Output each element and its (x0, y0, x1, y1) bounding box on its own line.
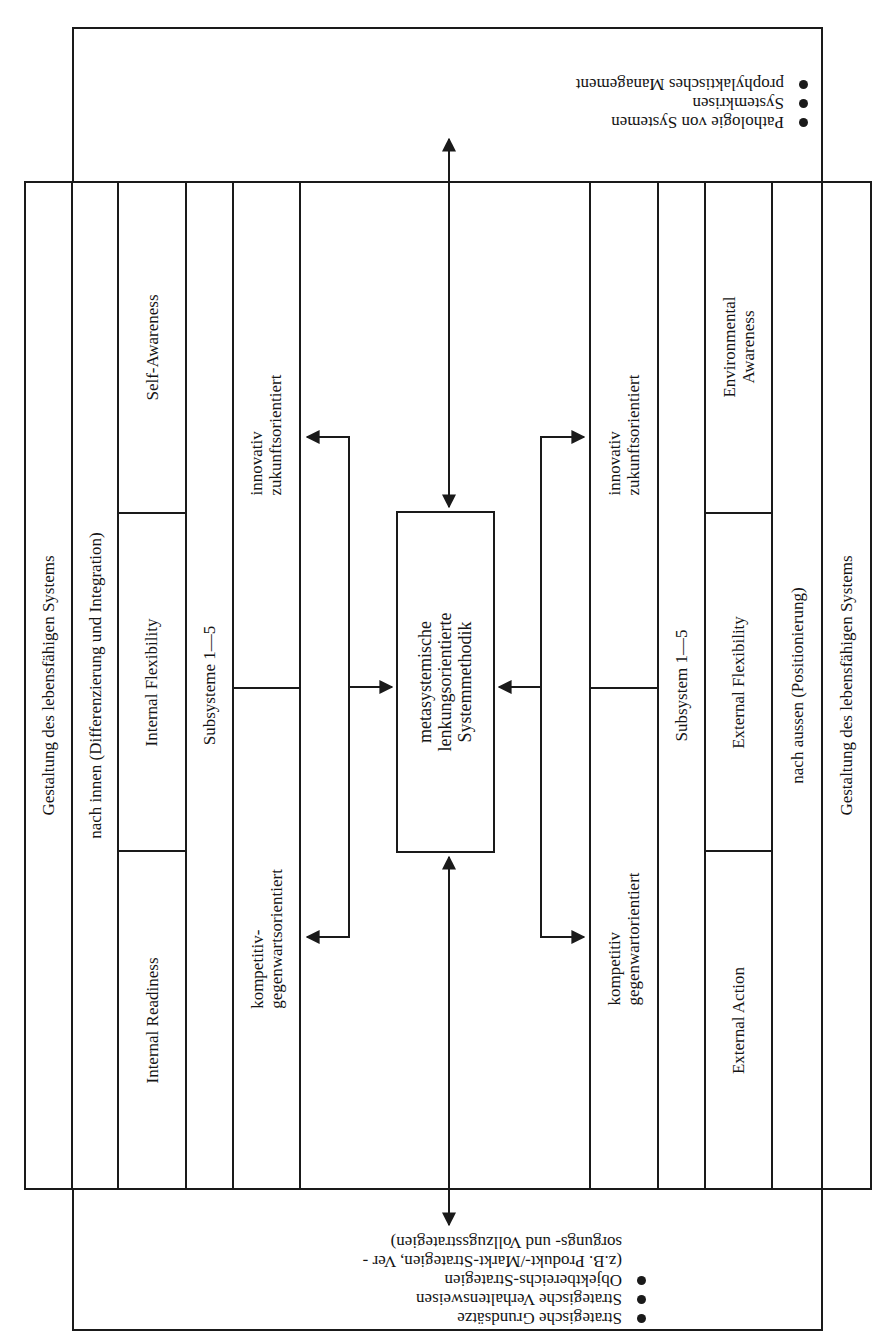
bullet-icon (637, 1295, 646, 1304)
external-flexibility-cell: External Flexibility (705, 513, 772, 851)
left-outer-label: Gestaltung des lebensfähigen Systems (24, 181, 72, 1190)
external-action-cell: External Action (705, 851, 772, 1190)
list-item: prophylaktisches Management (470, 75, 810, 94)
right-competitive-cell: kompetitiv gegenwartorientiert (590, 688, 658, 1190)
list-item: Strategische Grundsätze (308, 1309, 648, 1328)
self-awareness-cell: Self-Awareness (118, 181, 186, 513)
left-innovative-cell: innovativ zukunftsorientiert (233, 181, 300, 688)
list-item: Systemkrisen (470, 94, 810, 113)
right-direction-label: nach aussen (Positionierung) (772, 181, 822, 1190)
bullet-icon (637, 1314, 646, 1323)
bottom-box-list: Strategische Grundsätze Strategische Ver… (308, 1228, 648, 1328)
bullet-icon (799, 118, 808, 127)
center-methodology-label: metasystemische lenkungsorientierte Syst… (396, 511, 495, 853)
list-item-continuation: sorgungs- und Vollzugsstrategien) (308, 1233, 648, 1252)
environmental-awareness-cell: Environmental Awareness (705, 181, 772, 513)
right-innovative-cell: innovativ zukunftsorientiert (590, 181, 658, 688)
left-direction-label: nach innen (Differenzierung und Integrat… (72, 181, 118, 1190)
list-item-continuation: (z.B. Produkt-/Markt-Strategien, Ver - (308, 1252, 648, 1271)
bullet-icon (637, 1276, 646, 1285)
top-box-list: Pathologie von Systemen Systemkrisen pro… (470, 42, 810, 132)
list-item: Strategische Verhaltensweisen (308, 1290, 648, 1309)
left-competitive-cell: kompetitiv- gegenwartsorientiert (233, 688, 300, 1190)
left-subsystems-label: Subsysteme 1—5 (186, 181, 233, 1190)
right-outer-label: Gestaltung des lebensfähigen Systems (822, 181, 871, 1190)
internal-flexibility-cell: Internal Flexibility (118, 513, 186, 851)
list-item: Objektbereichs-Strategien (308, 1271, 648, 1290)
internal-readiness-cell: Internal Readiness (118, 851, 186, 1190)
list-item: Pathologie von Systemen (470, 113, 810, 132)
bullet-icon (799, 99, 808, 108)
bullet-icon (799, 80, 808, 89)
right-subsystems-label: Subsystem 1—5 (658, 181, 705, 1190)
